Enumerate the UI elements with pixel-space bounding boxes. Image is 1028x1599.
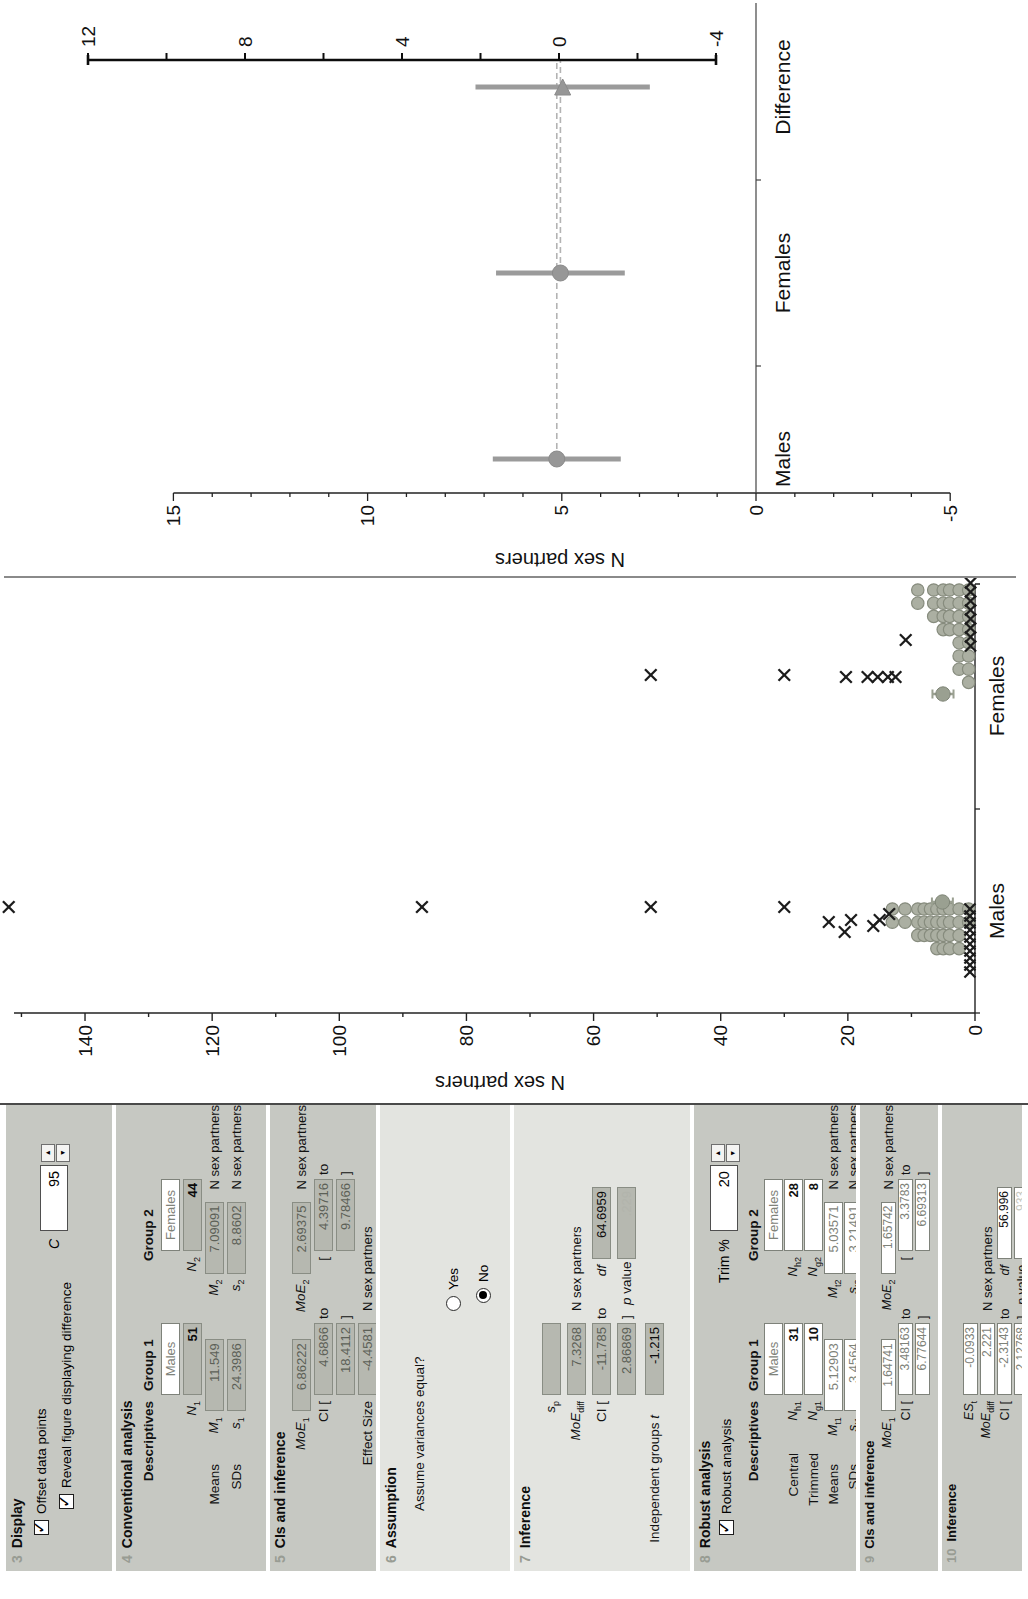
y-tick-label: 15: [163, 505, 184, 526]
ng1-value-cell: 10: [804, 1323, 823, 1395]
panel-number: 5: [272, 1555, 288, 1563]
y-tick-label: 40: [710, 1025, 731, 1046]
offset-data-points-label: Offset data points: [34, 1408, 49, 1514]
spin-down-icon[interactable]: ▼: [56, 1144, 70, 1162]
trim-percent-input[interactable]: 20: [710, 1165, 738, 1231]
category-label: Difference: [771, 39, 794, 134]
moe-units: N sex partners: [294, 1105, 309, 1202]
data-dot: [962, 676, 974, 688]
mt2-value-cell: 5.03571: [824, 1202, 843, 1274]
moe-diff-row: MoEdiff 2.221 N sex partners: [980, 1105, 995, 1563]
descriptives-label: Descriptives: [141, 1401, 156, 1563]
data-dot: [912, 584, 924, 596]
ci-row-lower: 6.77644 ] 6.69313 ]: [915, 1105, 930, 1563]
n1-var: N: [184, 1406, 199, 1416]
y-axis-title: N sex partners: [495, 549, 625, 571]
y-tick-label: 10: [357, 505, 378, 526]
df-value-cell: 56.996: [997, 1187, 1012, 1259]
data-dot: [953, 942, 965, 954]
sds-units: N sex partners: [229, 1105, 244, 1202]
central-n-row: Central Nh1 31 Nh2 28: [784, 1105, 803, 1563]
group-name-row: Males Females: [161, 1105, 180, 1563]
yes-radio[interactable]: [446, 1296, 461, 1311]
y-tick-label: 0: [965, 1025, 986, 1036]
panel-title-text: Inference: [517, 1486, 533, 1548]
data-dot: [899, 903, 911, 915]
no-radio-row: No: [473, 1105, 493, 1303]
moe-diff-units: N sex partners: [980, 1226, 995, 1323]
moe-row: MoE1 6.86222 MoE2 2.69375 N sex partners: [292, 1105, 311, 1563]
trimmed-mean-dot: [935, 895, 949, 909]
ci-diff-lower-cell: -11.785: [592, 1323, 611, 1395]
data-dot: [899, 916, 911, 928]
means-units: N sex partners: [207, 1105, 222, 1202]
moe-diff-cell: 7.3268: [567, 1323, 586, 1395]
group2-name-cell: Females: [764, 1179, 783, 1251]
trimmed-mean-dot: [936, 687, 950, 701]
nh1-value-cell: 31: [784, 1323, 803, 1395]
ci-row-upper: CI [ -2.3143 to df 56.996: [997, 1105, 1012, 1563]
y-tick-label: 100: [329, 1025, 350, 1057]
effect-size-cell: -4.4581: [358, 1323, 376, 1395]
group-name-row: Males Females: [764, 1105, 783, 1563]
panel-number: 6: [383, 1555, 399, 1563]
df-label: df: [594, 1265, 609, 1276]
mean-marker: [552, 265, 568, 281]
panel-title-text: Conventional analysis: [119, 1400, 135, 1548]
descriptives-header-row: Descriptives Group 1 Group 2: [139, 1105, 158, 1563]
spin-down-icon[interactable]: ▼: [726, 1144, 740, 1162]
y-tick-label: 5: [551, 505, 572, 516]
s2-value-cell: 8.8602: [227, 1202, 246, 1274]
data-dot: [962, 650, 974, 662]
panel-cis-inference-robust: 9CIs and inference MoE1 1.64741 MoE2 1.6…: [860, 1105, 938, 1571]
offset-data-points-checkbox[interactable]: [34, 1520, 49, 1535]
spin-up-icon[interactable]: ▲: [711, 1144, 725, 1162]
no-radio[interactable]: [476, 1288, 491, 1303]
p-value-label: value: [1015, 1265, 1023, 1295]
df-value-cell: 64.6959: [592, 1187, 611, 1259]
ci1-upper-cell: 18.4112: [336, 1323, 355, 1395]
p-value-cell: .229: [617, 1187, 636, 1259]
category-label: Males: [771, 431, 794, 487]
no-label: No: [476, 1265, 491, 1282]
reveal-difference-label: Reveal figure displaying difference: [59, 1282, 74, 1488]
moe2-value-cell: 1.65742: [881, 1202, 896, 1274]
y-tick-label: -5: [940, 505, 961, 522]
confidence-level-label: C: [46, 1239, 62, 1249]
ci2-upper-cell: 6.69313: [915, 1179, 930, 1251]
moe-diff-cell: 2.221: [980, 1323, 995, 1395]
group2-header: Group 2: [746, 1199, 761, 1271]
panel-title-text: Assumption: [383, 1467, 399, 1548]
sds-label: SDs: [229, 1464, 244, 1563]
confidence-level-spinner: C 95 ▲ ▼: [40, 1144, 71, 1249]
descriptives-label: Descriptives: [746, 1401, 761, 1563]
robust-analysis-label: Robust analysis: [719, 1419, 734, 1514]
category-label: Females: [771, 233, 794, 314]
y-tick-label: 0: [746, 505, 767, 516]
group2-name-cell[interactable]: Females: [161, 1179, 180, 1251]
dotplot-chart: 020406080100120140N sex partnersMalesFem…: [0, 577, 1028, 1098]
effect-size-row: Effect Size -4.4581 N sex partners: [358, 1105, 376, 1563]
nh2-value-cell: 28: [784, 1179, 803, 1251]
panel-display-title: 3Display: [9, 1105, 26, 1563]
difference-tick-label: 4: [392, 36, 413, 47]
group1-name-cell[interactable]: Males: [161, 1323, 180, 1395]
robust-analysis-checkbox[interactable]: [719, 1520, 734, 1535]
moe-row: MoE1 1.64741 MoE2 1.65742 N sex partners: [881, 1105, 896, 1563]
assume-variances-question: Assume variances equal?: [412, 1356, 427, 1511]
confidence-level-input[interactable]: 95: [40, 1165, 68, 1231]
mean-marker: [549, 451, 565, 467]
effect-size-units: N sex partners: [360, 1226, 375, 1323]
mt1-value-cell: 5.12903: [824, 1339, 843, 1411]
reveal-difference-checkbox[interactable]: [59, 1494, 74, 1509]
t-value-cell: -1.215: [645, 1323, 664, 1395]
group1-name-cell: Males: [764, 1323, 783, 1395]
group1-header: Group 1: [746, 1329, 761, 1401]
n2-var: N: [184, 1262, 199, 1272]
spin-up-icon[interactable]: ▲: [41, 1144, 55, 1162]
panel-number: 4: [119, 1555, 135, 1563]
panel-assumption: 6Assumption Assume variances equal? Yes …: [380, 1105, 510, 1571]
p-value-cell: .933: [1014, 1187, 1022, 1259]
y-tick-label: 60: [583, 1025, 604, 1046]
ci-row-upper: CI [ 3.48163 to [ 3.3783 to: [898, 1105, 913, 1563]
